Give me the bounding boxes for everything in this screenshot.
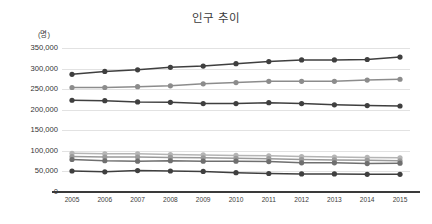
data-point-marker <box>266 100 271 105</box>
x-axis-tick-label: 2007 <box>123 196 153 203</box>
data-point-marker <box>201 64 206 69</box>
data-point-marker <box>332 102 337 107</box>
y-axis-tick-label: 200,000 <box>12 105 58 114</box>
data-point-marker <box>201 159 206 164</box>
x-axis-tick-label: 2005 <box>57 196 87 203</box>
data-point-marker <box>135 99 140 104</box>
data-point-marker <box>299 79 304 84</box>
data-point-marker <box>135 168 140 173</box>
data-point-marker <box>69 72 74 77</box>
data-point-marker <box>201 81 206 86</box>
data-point-marker <box>365 172 370 177</box>
data-point-marker <box>365 57 370 62</box>
data-point-marker <box>69 157 74 162</box>
data-point-marker <box>299 57 304 62</box>
data-point-marker <box>69 98 74 103</box>
plot-area <box>62 48 410 192</box>
data-point-marker <box>299 101 304 106</box>
data-point-marker <box>135 84 140 89</box>
data-point-marker <box>233 159 238 164</box>
data-point-marker <box>397 77 402 82</box>
y-axis-tick-label: 350,000 <box>12 43 58 52</box>
series-series-2 <box>69 77 402 90</box>
data-point-marker <box>102 98 107 103</box>
data-point-marker <box>266 79 271 84</box>
data-point-marker <box>135 159 140 164</box>
data-point-marker <box>102 85 107 90</box>
y-axis-tick-labels: 050,000100,000150,000200,000250,000300,0… <box>8 0 58 224</box>
data-point-marker <box>266 59 271 64</box>
data-point-marker <box>233 80 238 85</box>
data-point-marker <box>168 158 173 163</box>
data-point-marker <box>266 159 271 164</box>
series-series-7 <box>69 168 402 177</box>
data-point-marker <box>102 158 107 163</box>
data-point-marker <box>102 169 107 174</box>
x-axis-tick-label: 2011 <box>254 196 284 203</box>
data-point-marker <box>332 79 337 84</box>
data-point-marker <box>365 77 370 82</box>
data-point-marker <box>397 54 402 59</box>
data-point-marker <box>365 161 370 166</box>
data-point-marker <box>168 83 173 88</box>
y-axis-tick-label: 250,000 <box>12 84 58 93</box>
data-point-marker <box>69 85 74 90</box>
data-point-marker <box>168 65 173 70</box>
x-axis-line <box>52 191 420 193</box>
data-point-marker <box>332 160 337 165</box>
data-point-marker <box>233 170 238 175</box>
data-point-marker <box>299 160 304 165</box>
y-axis-tick-label: 150,000 <box>12 125 58 134</box>
x-axis-tick-label: 2015 <box>385 196 415 203</box>
x-axis-tick-labels: 2005200620072008200920102011201220132014… <box>0 196 432 212</box>
x-axis-tick-label: 2008 <box>155 196 185 203</box>
x-axis-tick-label: 2013 <box>319 196 349 203</box>
data-point-marker <box>266 171 271 176</box>
data-point-marker <box>397 172 402 177</box>
data-point-marker <box>233 61 238 66</box>
data-point-marker <box>233 101 238 106</box>
data-point-marker <box>397 161 402 166</box>
chart-title: 인구 추이 <box>0 9 432 25</box>
data-point-marker <box>332 57 337 62</box>
y-axis-tick-label: 300,000 <box>12 64 58 73</box>
series-layer <box>62 48 410 192</box>
data-point-marker <box>201 101 206 106</box>
x-axis-tick-label: 2009 <box>188 196 218 203</box>
x-axis-tick-label: 2006 <box>90 196 120 203</box>
data-point-marker <box>168 168 173 173</box>
data-point-marker <box>69 168 74 173</box>
data-point-marker <box>299 171 304 176</box>
data-point-marker <box>332 171 337 176</box>
data-point-marker <box>168 100 173 105</box>
data-point-marker <box>365 103 370 108</box>
data-point-marker <box>135 67 140 72</box>
y-axis-tick-label: 50,000 <box>12 166 58 175</box>
data-point-marker <box>397 103 402 108</box>
data-point-marker <box>102 69 107 74</box>
series-series-1 <box>69 54 402 76</box>
y-axis-tick-label: 100,000 <box>12 146 58 155</box>
x-axis-tick-label: 2010 <box>221 196 251 203</box>
series-series-3 <box>69 98 402 109</box>
data-point-marker <box>201 169 206 174</box>
x-axis-tick-label: 2012 <box>287 196 317 203</box>
x-axis-tick-label: 2014 <box>352 196 382 203</box>
population-trend-chart: 인구 추이 (명) 050,000100,000150,000200,00025… <box>0 0 432 224</box>
